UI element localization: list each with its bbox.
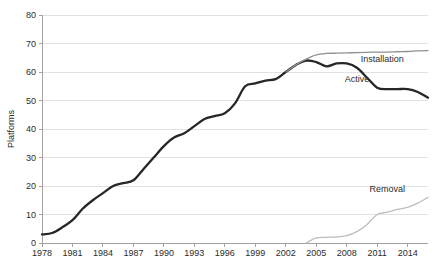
x-tick-label: 1996: [215, 248, 235, 258]
x-tick-label: 1993: [184, 248, 204, 258]
x-tick-label: 1990: [154, 248, 174, 258]
series-label-installation: Installation: [361, 54, 404, 64]
line-chart: 01020304050607080 1978198119841987199019…: [0, 0, 434, 271]
y-axis-title-text: Platforms: [6, 109, 16, 148]
y-tick-label: 10: [26, 210, 36, 220]
y-tick-label: 30: [26, 153, 36, 163]
y-tick-label: 40: [26, 124, 36, 134]
x-tick-label: 1999: [245, 248, 265, 258]
series-label-removal: Removal: [370, 184, 406, 194]
x-tick-label: 2008: [337, 248, 357, 258]
y-tick-label: 20: [26, 181, 36, 191]
chart-container: 01020304050607080 1978198119841987199019…: [0, 0, 434, 271]
series-line-removal: [306, 197, 428, 243]
x-tick-label: 2005: [306, 248, 326, 258]
y-tick-label: 50: [26, 96, 36, 106]
gridlines: [42, 15, 428, 243]
y-tick-label: 0: [31, 238, 36, 248]
y-tick-label: 70: [26, 39, 36, 49]
x-tick-label: 1984: [93, 248, 113, 258]
x-tick-label: 1978: [32, 248, 52, 258]
x-tick-label: 1981: [62, 248, 82, 258]
x-tick-label: 2011: [368, 248, 387, 258]
y-axis-title: Platforms: [6, 109, 16, 148]
y-tick-label: 60: [26, 67, 36, 77]
x-tick-label: 2014: [398, 248, 418, 258]
x-tick-label: 2002: [276, 248, 296, 258]
series-label-active: Active: [345, 74, 370, 84]
x-tick-label: 1987: [123, 248, 143, 258]
series-line-active: [42, 60, 428, 234]
y-tick-label: 80: [26, 10, 36, 20]
x-axis-tick-labels: 1978198119841987199019931996199920022005…: [32, 243, 418, 258]
y-axis-tick-labels: 01020304050607080: [26, 10, 42, 248]
series-inline-labels: ActiveInstallationRemoval: [345, 54, 405, 194]
